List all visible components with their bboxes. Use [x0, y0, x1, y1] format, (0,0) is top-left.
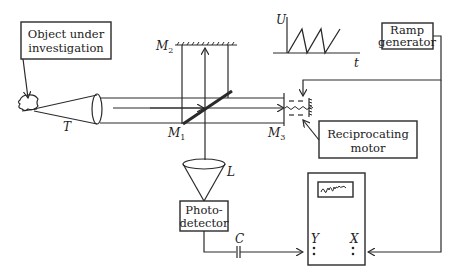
capacitor-C — [237, 246, 240, 258]
detector-box-line1: Photo- — [185, 203, 223, 217]
label-C: C — [235, 232, 244, 246]
scope-label-Y: Y — [311, 232, 320, 246]
object-pointer-arrow — [23, 59, 28, 98]
ramp-generator-box: Ramp generator — [378, 23, 436, 49]
object-under-investigation-box: Object under investigation — [21, 22, 111, 59]
reciprocating-motor-box: Reciprocating motor — [319, 121, 417, 158]
plot-y-label-U: U — [276, 13, 287, 27]
motor-pointer-arrow — [303, 120, 319, 140]
oscilloscope — [308, 173, 365, 265]
lens-L — [183, 159, 225, 201]
telescope-T — [22, 94, 102, 124]
label-M1: M1 — [167, 126, 185, 142]
ramp-to-scope-x-wire — [368, 80, 441, 252]
object-box-line2: investigation — [28, 41, 104, 55]
label-T: T — [63, 120, 72, 134]
photodetector-box: Photo- detector — [179, 201, 229, 231]
object-box-line1: Object under — [28, 27, 105, 41]
interferometer-diagram: Object under investigation T M2 M1 M3 — [0, 0, 453, 274]
motor-box-line2: motor — [351, 141, 386, 155]
label-M3: M3 — [267, 126, 285, 142]
label-M2: M2 — [155, 39, 173, 55]
plot-x-label-t: t — [354, 56, 359, 70]
motor-box-line1: Reciprocating — [327, 127, 409, 141]
detector-wire — [204, 231, 236, 252]
spring-mount — [285, 98, 313, 117]
scope-label-X: X — [349, 232, 359, 246]
detector-box-line2: detector — [179, 216, 229, 230]
ramp-box-line2: generator — [378, 35, 436, 49]
mirror-M2 — [175, 42, 237, 45]
label-L: L — [226, 165, 235, 179]
